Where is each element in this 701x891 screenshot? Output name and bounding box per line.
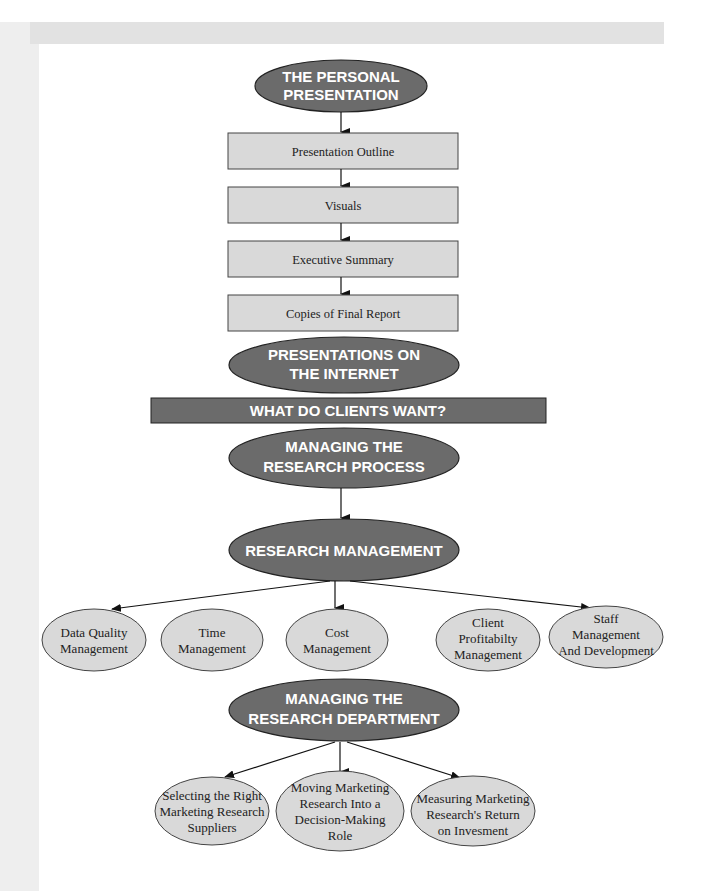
banner-label: WHAT DO CLIENTS WANT? [250, 402, 446, 419]
node-client-profitability-management: Client Profitabilty Management [436, 609, 540, 671]
node-label-line: Role [328, 828, 353, 843]
node-research-management: RESEARCH MANAGEMENT [229, 519, 459, 581]
arrow-connector [112, 581, 330, 609]
step-label: Copies of Final Report [286, 307, 401, 321]
node-label-line: PRESENTATION [283, 86, 398, 103]
step-label: Visuals [325, 199, 362, 213]
node-label-line: Measuring Marketing [416, 791, 530, 806]
node-label-line: Profitabilty [458, 631, 518, 646]
arrow-connector [225, 742, 335, 777]
node-managing-research-department: MANAGING THE RESEARCH DEPARTMENT [229, 679, 459, 741]
flow-diagram: THE PERSONAL PRESENTATION Presentation O… [0, 0, 701, 891]
step-label: Executive Summary [292, 253, 394, 267]
step-label: Presentation Outline [292, 145, 395, 159]
node-label-line: MANAGING THE [285, 690, 403, 707]
step-executive-summary: Executive Summary [228, 241, 458, 277]
node-label-line: Decision-Making [295, 812, 386, 827]
node-label-line: PRESENTATIONS ON [268, 346, 420, 363]
node-label-line: Research's Return [426, 807, 520, 822]
node-label-line: Client [472, 615, 504, 630]
node-label-line: Management [303, 641, 371, 656]
node-label-line: Research Into a [300, 796, 381, 811]
node-label-line: RESEARCH DEPARTMENT [248, 710, 439, 727]
step-visuals: Visuals [228, 187, 458, 223]
node-label-line: Staff [593, 611, 619, 626]
node-label-line: Suppliers [187, 820, 236, 835]
node-presentations-internet: PRESENTATIONS ON THE INTERNET [229, 337, 459, 393]
node-data-quality-management: Data Quality Management [42, 609, 146, 671]
node-label-line: Selecting the Right [162, 788, 262, 803]
banner-what-clients-want: WHAT DO CLIENTS WANT? [151, 398, 546, 423]
node-label-line: Time [199, 625, 226, 640]
node-label-line: Management [178, 641, 246, 656]
node-cost-management: Cost Management [286, 609, 388, 671]
node-label-line: Marketing Research [159, 804, 265, 819]
node-label-line: Management [60, 641, 128, 656]
arrow-connector [350, 581, 590, 608]
node-label-line: Management [454, 647, 522, 662]
node-time-management: Time Management [161, 609, 263, 671]
node-label-line: on Invesment [438, 823, 509, 838]
node-label-line: Data Quality [61, 625, 128, 640]
node-label-line: THE INTERNET [289, 365, 398, 382]
node-label-line: RESEARCH PROCESS [263, 458, 425, 475]
node-label-line: Cost [325, 625, 349, 640]
node-selecting-suppliers: Selecting the Right Marketing Research S… [155, 777, 269, 845]
node-label-line: And Development [558, 643, 654, 658]
node-decision-making-role: Moving Marketing Research Into a Decisio… [276, 771, 404, 851]
arrow-connector [347, 742, 460, 778]
node-measuring-return: Measuring Marketing Research's Return on… [411, 776, 535, 846]
step-presentation-outline: Presentation Outline [228, 133, 458, 169]
node-staff-management-development: Staff Management And Development [549, 606, 663, 668]
node-managing-research-process: MANAGING THE RESEARCH PROCESS [229, 428, 459, 488]
node-label-line: Moving Marketing [291, 780, 390, 795]
node-label-line: THE PERSONAL [282, 68, 400, 85]
node-label-line: Management [572, 627, 640, 642]
step-copies-final-report: Copies of Final Report [228, 295, 458, 331]
node-personal-presentation: THE PERSONAL PRESENTATION [255, 60, 427, 112]
node-label-line: MANAGING THE [285, 438, 403, 455]
node-label-line: RESEARCH MANAGEMENT [245, 542, 443, 559]
